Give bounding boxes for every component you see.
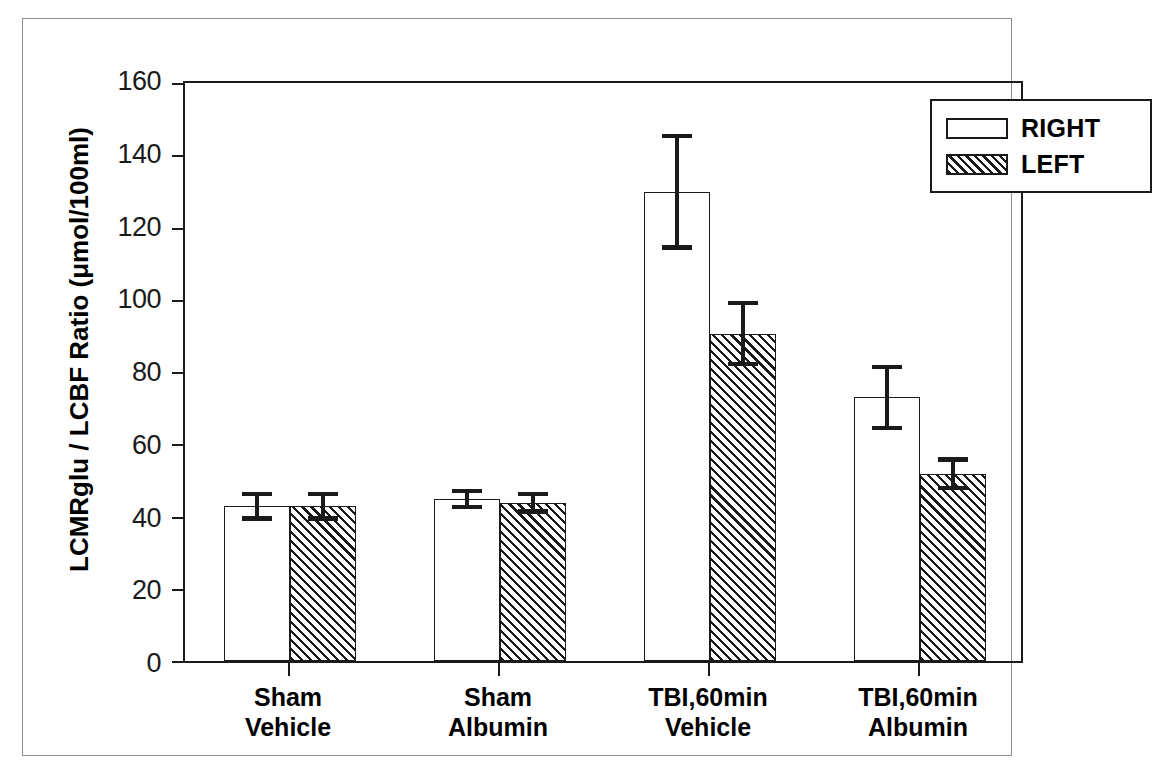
error-bar-cap-bottom: [308, 516, 338, 521]
bar-group: [224, 83, 356, 661]
error-bar-cap-bottom: [662, 245, 692, 250]
bars-layer: [185, 83, 1021, 661]
bar-right-2: [644, 192, 710, 661]
bar-right-1: [434, 499, 500, 661]
figure-frame: LCMRglu / LCBF Ratio (μmol/100ml) 160 14…: [22, 18, 1012, 756]
x-tick-1: [498, 663, 500, 676]
legend-item-right: RIGHT: [946, 110, 1150, 146]
y-tick-160: [172, 83, 185, 85]
x-axis-label-line: Albumin: [383, 713, 613, 743]
x-tick-2: [708, 663, 710, 676]
x-axis-label-3: TBI,60minAlbumin: [803, 683, 1033, 742]
x-axis-label-0: ShamVehicle: [173, 683, 403, 742]
y-tick-label-20: 20: [91, 575, 161, 606]
error-bar-stem: [741, 301, 744, 366]
y-tick-80: [172, 372, 185, 374]
x-axis-label-2: TBI,60minVehicle: [593, 683, 823, 742]
legend-swatch-right: [946, 118, 1008, 139]
bar-left-2: [710, 334, 776, 661]
error-bar-cap-bottom: [452, 505, 482, 510]
y-tick-label-40: 40: [91, 502, 161, 533]
error-bar-cap-bottom: [728, 362, 758, 367]
error-bar-stem: [885, 365, 888, 430]
plot-area: RIGHT LEFT: [183, 81, 1023, 663]
y-tick-20: [172, 589, 185, 591]
bar-left-0: [290, 506, 356, 661]
x-axis-label-line: Albumin: [803, 713, 1033, 743]
error-bar-cap-top: [728, 301, 758, 306]
error-bar-stem: [675, 134, 678, 250]
y-tick-120: [172, 228, 185, 230]
error-bar-cap-top: [452, 489, 482, 494]
x-tick-3: [918, 663, 920, 676]
x-axis-label-line: Vehicle: [593, 713, 823, 743]
error-bar-cap-top: [938, 457, 968, 462]
error-bar-cap-bottom: [938, 486, 968, 491]
x-axis-label-line: Sham: [383, 683, 613, 713]
y-tick-60: [172, 444, 185, 446]
x-axis-label-1: ShamAlbumin: [383, 683, 613, 742]
y-tick-label-0: 0: [91, 648, 161, 679]
chart-legend: RIGHT LEFT: [930, 99, 1152, 193]
y-tick-label-100: 100: [91, 284, 161, 315]
error-bar-cap-bottom: [872, 426, 902, 431]
error-bar-cap-top: [872, 365, 902, 370]
bar-right-3: [854, 397, 920, 661]
legend-swatch-left: [946, 154, 1008, 175]
y-tick-label-80: 80: [91, 357, 161, 388]
x-axis-label-line: TBI,60min: [803, 683, 1033, 713]
error-bar-cap-bottom: [518, 509, 548, 514]
y-tick-140: [172, 155, 185, 157]
y-tick-40: [172, 517, 185, 519]
y-tick-label-60: 60: [91, 429, 161, 460]
legend-label-left: LEFT: [1021, 150, 1085, 179]
x-axis-label-line: TBI,60min: [593, 683, 823, 713]
error-bar-cap-top: [308, 492, 338, 497]
x-tick-0: [288, 663, 290, 676]
y-tick-label-120: 120: [91, 211, 161, 242]
error-bar-cap-top: [518, 492, 548, 497]
x-axis-ticks: [183, 663, 1027, 677]
bar-group: [644, 83, 776, 661]
bar-left-3: [920, 474, 986, 661]
bar-right-0: [224, 506, 290, 661]
bar-group: [434, 83, 566, 661]
x-axis-label-line: Sham: [173, 683, 403, 713]
legend-label-right: RIGHT: [1021, 114, 1100, 143]
error-bar-cap-bottom: [242, 516, 272, 521]
y-tick-label-160: 160: [91, 66, 161, 97]
x-axis-labels: ShamVehicleShamAlbuminTBI,60minVehicleTB…: [183, 683, 1023, 773]
y-axis-tick-labels: 160 140 120 100 80 60 40 20 0: [85, 81, 161, 663]
bar-left-1: [500, 503, 566, 661]
x-axis-label-line: Vehicle: [173, 713, 403, 743]
y-tick-100: [172, 300, 185, 302]
error-bar-cap-top: [242, 492, 272, 497]
legend-item-left: LEFT: [946, 146, 1150, 182]
error-bar-cap-top: [662, 134, 692, 139]
y-tick-label-140: 140: [91, 138, 161, 169]
